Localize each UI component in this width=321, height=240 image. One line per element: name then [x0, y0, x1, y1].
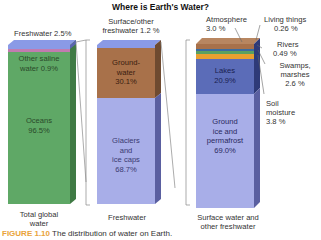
figure-caption-text: The distribution of water on Earth. — [52, 229, 172, 238]
segment-label-glaciers: Glaciers and ice caps 68.7% — [97, 136, 155, 174]
callout-freshwater: Freshwater 2.5% — [14, 29, 71, 38]
callout-atmosphere: Atmosphere 3.0 % — [206, 15, 247, 33]
callout-surface-other-freshwater: Surface/other freshwater 1.2 % — [96, 17, 166, 35]
category-label-freshwater: Freshwater — [90, 213, 164, 222]
segment-label-oceans: Oceans 96.5% — [8, 116, 70, 135]
segment-label-ground-ice: Ground ice and permafrost 69.0% — [196, 117, 254, 155]
segment-label-lakes: Lakes 20.9% — [196, 66, 254, 85]
callout-living-things: Living things 0.26 % — [264, 15, 306, 33]
segment-label-other-saline: Other saline water 0.9% — [8, 54, 70, 73]
figure-number: FIGURE 1.10 — [2, 229, 50, 238]
segment-label-groundwater: Ground- water 30.1% — [97, 58, 155, 87]
callout-swamps-marshes: Swamps, marshes 2.6 % — [270, 61, 320, 88]
callout-soil-moisture: Soil moisture 3.8 % — [266, 99, 295, 126]
figure-caption: FIGURE 1.10 The distribution of water on… — [2, 229, 172, 238]
callout-rivers: Rivers 0.49 % — [273, 40, 299, 58]
category-label-total-global-water: Total global water — [0, 210, 78, 228]
category-label-surface-water: Surface water and other freshwater — [186, 213, 270, 231]
